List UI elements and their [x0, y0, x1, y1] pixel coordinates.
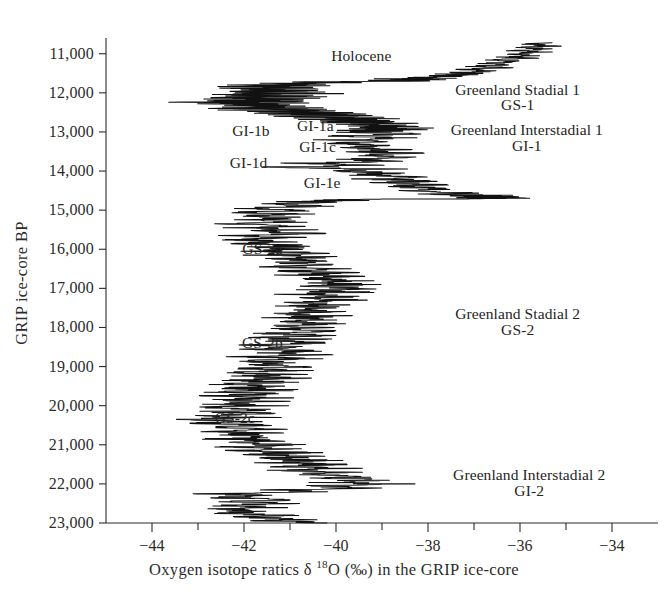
x-axis-title-lead: Oxygen isotope ratics [149, 560, 304, 579]
annotation-gs2c: GS-2c [215, 409, 255, 427]
annotation-gs2b: GS-2b [242, 334, 283, 352]
x-tick-label: −36 [507, 537, 533, 555]
delta-18o-trace [169, 43, 561, 523]
grip-ice-core-figure: 11,00012,00013,00014,00015,00016,00017,0… [0, 0, 668, 597]
y-tick-label: 22,000 [49, 475, 94, 493]
delta-symbol: δ [304, 560, 317, 579]
annotation-gi2-line2: GI-2 [514, 482, 544, 500]
y-tick-label: 19,000 [49, 358, 94, 376]
y-tick-label: 23,000 [49, 514, 94, 532]
y-tick-label: 11,000 [49, 45, 94, 63]
y-tick-label: 21,000 [49, 436, 94, 454]
x-tick-label: −42 [231, 537, 257, 555]
y-tick-label: 14,000 [49, 162, 94, 180]
annotation-gs2a: GS-2a [242, 240, 282, 258]
y-tick-label: 12,000 [49, 84, 94, 102]
y-tick-label: 17,000 [49, 279, 94, 297]
y-tick-label: 18,000 [49, 318, 94, 336]
x-tick-label: −34 [599, 537, 625, 555]
annotation-holocene: Holocene [331, 47, 391, 65]
x-tick-label: −44 [139, 537, 165, 555]
y-tick-label: 16,000 [49, 240, 94, 258]
annotation-gi1e: GI-1e [304, 174, 341, 192]
annotation-gs2-line2: GS-2 [501, 321, 534, 339]
annotation-gi1a: GI-1a [297, 117, 334, 135]
x-axis-title: Oxygen isotope ratics δ 18O (‰) in the G… [149, 558, 519, 580]
x-tick-label: −38 [415, 537, 441, 555]
annotation-gi1b: GI-1b [232, 122, 270, 140]
y-tick-label: 13,000 [49, 123, 94, 141]
annotation-gs1-line2: GS-1 [501, 96, 534, 114]
annotation-gi1-line2: GI-1 [512, 137, 542, 155]
annotation-gi1c: GI-1c [299, 138, 336, 156]
annotation-gi1d: GI-1d [230, 154, 268, 172]
mass-number: 18 [316, 558, 328, 570]
y-tick-label: 15,000 [49, 201, 94, 219]
x-tick-label: −40 [323, 537, 349, 555]
y-axis-title: GRIP ice-core BP [12, 221, 32, 344]
x-axis-title-tail: O (‰) in the GRIP ice-core [328, 560, 519, 579]
y-tick-label: 20,000 [49, 397, 94, 415]
